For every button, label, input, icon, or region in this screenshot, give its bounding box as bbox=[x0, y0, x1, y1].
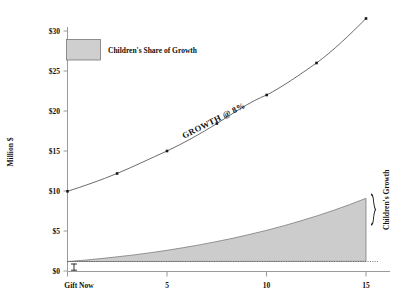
y-tick-label-0: $0 bbox=[53, 267, 61, 276]
y-axis-title: Million $ bbox=[6, 137, 15, 166]
growth-curve-label: GROWTH @ 8% bbox=[180, 100, 246, 140]
childrens-growth-label: Children's Growth bbox=[382, 169, 391, 230]
growth-curve-markers bbox=[66, 17, 367, 192]
childrens-growth-brace bbox=[371, 195, 376, 225]
x-tick-marks bbox=[68, 272, 367, 277]
y-tick-marks bbox=[64, 31, 68, 271]
y-tick-label-30: $30 bbox=[49, 27, 61, 36]
y-tick-label-25: $25 bbox=[49, 67, 61, 76]
childrens-share-area bbox=[68, 198, 367, 261]
y-tick-label-20: $20 bbox=[49, 107, 61, 116]
chart-svg: $30 $25 $20 $15 $10 $5 $0 Gift Now 5 10 … bbox=[0, 0, 397, 297]
growth-curve-line bbox=[68, 19, 367, 192]
legend-swatch bbox=[67, 40, 101, 61]
x-tick-label-15: 15 bbox=[362, 281, 370, 290]
chart-container: $30 $25 $20 $15 $10 $5 $0 Gift Now 5 10 … bbox=[0, 0, 397, 297]
x-tick-label-10: 10 bbox=[263, 281, 271, 290]
legend-label: Children's Share of Growth bbox=[108, 46, 198, 55]
y-tick-label-5: $5 bbox=[53, 227, 61, 236]
x-tick-label-gift-now: Gift Now bbox=[64, 281, 94, 290]
y-tick-label-10: $10 bbox=[49, 187, 61, 196]
y-tick-label-15: $15 bbox=[49, 147, 61, 156]
x-tick-label-5: 5 bbox=[165, 281, 169, 290]
gift-now-arrow bbox=[71, 264, 77, 271]
